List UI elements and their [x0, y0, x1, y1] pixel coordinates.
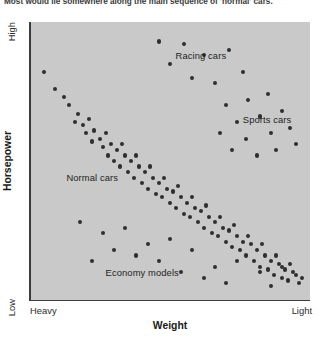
scatter-point [232, 223, 236, 227]
scatter-point [196, 220, 200, 224]
scatter-point [123, 226, 127, 230]
scatter-point [269, 131, 273, 135]
scatter-point [235, 259, 239, 263]
y-axis-line [29, 22, 31, 301]
scatter-point [235, 234, 239, 238]
plot-annotation: Normal cars [66, 172, 118, 183]
scatter-point [263, 253, 267, 257]
scatter-point [179, 195, 183, 199]
scatter-point [249, 242, 253, 246]
scatter-point [269, 259, 273, 263]
scatter-point [157, 39, 161, 43]
scatter-point [168, 62, 172, 66]
scatter-point [280, 276, 284, 280]
scatter-point [182, 42, 186, 46]
scatter-point [76, 112, 80, 116]
scatter-point [280, 109, 284, 113]
scatter-point [199, 209, 203, 213]
scatter-point [224, 281, 228, 285]
scatter-point [272, 273, 276, 277]
scatter-point [162, 176, 166, 180]
scatter-point [115, 148, 119, 152]
scatter-point [227, 48, 231, 52]
plot-panel: Racing carsSports carsNormal carsEconomy… [30, 22, 310, 300]
scatter-point [157, 181, 161, 185]
x-axis-heavy-label: Heavy [30, 305, 57, 316]
scatter-point [224, 240, 228, 244]
scatter-point [106, 153, 110, 157]
scatter-point [288, 126, 292, 130]
scatter-point [134, 153, 138, 157]
scatter-point [154, 192, 158, 196]
scatter-point [207, 215, 211, 219]
scatter-point [213, 265, 217, 269]
scatter-point [109, 142, 113, 146]
scatter-point [269, 284, 273, 288]
scatter-point [202, 276, 206, 280]
scatter-point [123, 153, 127, 157]
scatter-point [230, 148, 234, 152]
scatter-point [132, 176, 136, 180]
y-axis-title: Horsepower [2, 131, 13, 191]
scatter-point [300, 276, 304, 280]
scatter-point [213, 81, 217, 85]
scatter-point [255, 248, 259, 252]
scatter-point [104, 131, 108, 135]
scatter-point [160, 195, 164, 199]
scatter-point [252, 259, 256, 263]
scatter-point [190, 76, 194, 80]
scatter-point [246, 234, 250, 238]
scatter-point [168, 237, 172, 241]
scatter-point [246, 98, 250, 102]
scatter-point [238, 248, 242, 252]
scatter-point [218, 131, 222, 135]
scatter-point [294, 273, 298, 277]
scatter-point [67, 103, 71, 107]
scatter-point [286, 278, 290, 282]
scatter-point [202, 226, 206, 230]
scatter-point [137, 164, 141, 168]
scatter-point [92, 128, 96, 132]
scatter-point [297, 281, 301, 285]
scatter-point [280, 265, 284, 269]
y-axis-low-label: Low [6, 299, 17, 316]
scatter-point [204, 203, 208, 207]
scatter-point [193, 206, 197, 210]
scatter-point [227, 228, 231, 232]
scatter-point [134, 253, 138, 257]
scatter-point [221, 226, 225, 230]
scatter-point [168, 201, 172, 205]
scatter-point [42, 70, 46, 74]
scatter-point [179, 270, 183, 274]
scatter-point [210, 231, 214, 235]
scatter-point [157, 259, 161, 263]
scatter-point [112, 248, 116, 252]
scatter-point [146, 242, 150, 246]
scatter-point [260, 242, 264, 246]
scatter-point [230, 245, 234, 249]
scatter-point [90, 139, 94, 143]
scatter-point [218, 215, 222, 219]
figure-caption: Most would lie somewhere along the main … [4, 0, 322, 6]
scatter-point [274, 148, 278, 152]
scatter-point [171, 189, 175, 193]
scatter-point [241, 70, 245, 74]
scatter-point [185, 201, 189, 205]
scatter-point [244, 253, 248, 257]
x-axis-light-label: Light [292, 305, 312, 316]
scatter-point [266, 267, 270, 271]
scatter-point [255, 153, 259, 157]
scatter-point [241, 240, 245, 244]
scatter-point [53, 87, 57, 91]
scatter-point [126, 170, 130, 174]
scatter-point [81, 123, 85, 127]
scatter-point [216, 234, 220, 238]
scatter-point [62, 95, 66, 99]
scatter-point [101, 231, 105, 235]
scatter-point [98, 137, 102, 141]
scatter-point [174, 206, 178, 210]
scatter-point [188, 215, 192, 219]
scatter-point [213, 220, 217, 224]
scatter-point [87, 117, 91, 121]
scatter-point [258, 265, 262, 269]
